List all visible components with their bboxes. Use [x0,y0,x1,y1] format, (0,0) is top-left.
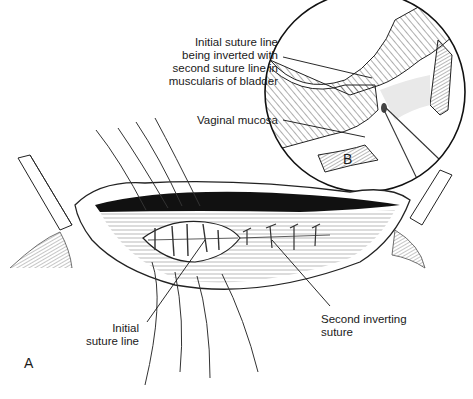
label-inverted-suture-line: Initial suture line being inverted with … [169,36,278,88]
label-second-inverting-suture: Second inverting suture [321,313,407,339]
label-vaginal-mucosa: Vaginal mucosa [197,114,278,127]
inset-b [260,0,470,185]
panel-label-a: A [24,355,33,371]
panel-a-drawing [10,118,452,385]
panel-label-b: B [343,151,352,167]
label-initial-suture-line: Initial suture line [86,322,139,348]
surgical-illustration: Initial suture line being inverted with … [0,0,473,399]
